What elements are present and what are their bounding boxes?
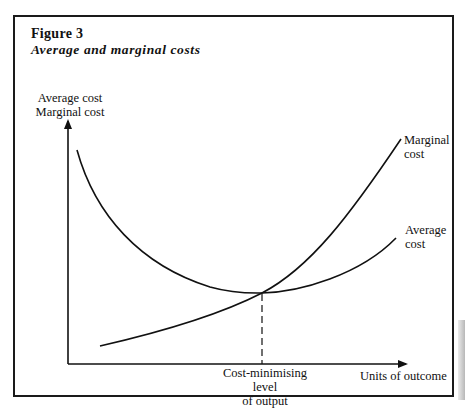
cost-minimising-label-line2: of output [210, 394, 320, 408]
marginal-cost-curve [100, 139, 401, 346]
average-cost-label: Average cost [405, 223, 446, 251]
marginal-cost-label-line2: cost [404, 147, 450, 161]
cost-minimising-label-line1: Cost-minimising level [210, 366, 320, 394]
average-cost-label-line1: Average [405, 223, 446, 237]
x-axis-label: Units of outcome [360, 369, 447, 383]
average-cost-label-line2: cost [405, 237, 446, 251]
cost-minimising-label: Cost-minimising level of output [210, 366, 320, 408]
average-cost-curve [77, 150, 396, 293]
marginal-cost-label: Marginal cost [404, 133, 450, 161]
marginal-cost-label-line1: Marginal [404, 133, 450, 147]
